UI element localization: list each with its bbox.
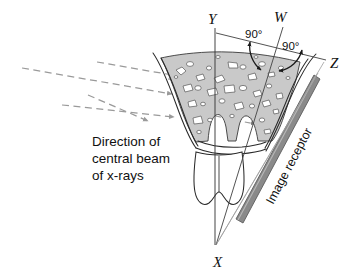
beam-arrow-1 <box>22 68 172 94</box>
beam-caption-line-2: central beam <box>92 151 170 166</box>
gingival-margin-2 <box>198 141 266 147</box>
alveolar-bone <box>161 52 300 142</box>
xray-beam-arrows <box>22 62 178 121</box>
gingival-margin <box>196 148 266 154</box>
beam-arrow-3 <box>62 105 174 117</box>
angle-label-left: 90° <box>245 28 262 40</box>
label-z: Z <box>330 55 339 71</box>
bisecting-angle-figure: Y W Z X 90° 90° Direction of central bea… <box>0 0 354 276</box>
beam-caption-line-1: Direction of <box>92 134 161 149</box>
figure-canvas: Y W Z X 90° 90° Direction of central bea… <box>0 0 354 276</box>
beam-arrow-4 <box>88 95 148 121</box>
label-w: W <box>274 9 288 25</box>
beam-caption-line-3: of x-rays <box>92 168 144 183</box>
beam-caption: Direction of central beam of x-rays <box>92 134 170 183</box>
angle-label-right: 90° <box>282 40 299 52</box>
label-y: Y <box>208 11 218 27</box>
label-x: X <box>212 254 223 270</box>
